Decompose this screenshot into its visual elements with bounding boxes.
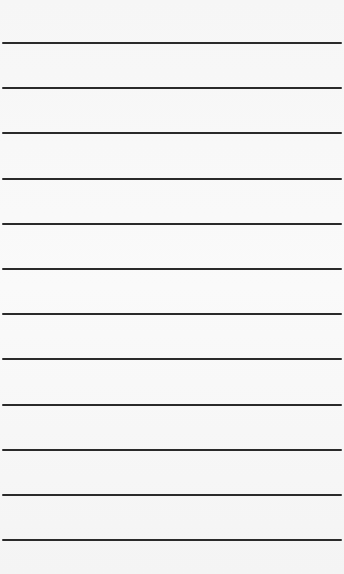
ruled-line — [2, 404, 342, 406]
ruled-line — [2, 494, 342, 496]
ruled-line — [2, 313, 342, 315]
ruled-line — [2, 539, 342, 541]
ruled-line — [2, 223, 342, 225]
ruled-line — [2, 358, 342, 360]
ruled-line — [2, 449, 342, 451]
ruled-line — [2, 87, 342, 89]
ruled-line — [2, 132, 342, 134]
lined-paper — [0, 0, 344, 574]
ruled-line — [2, 178, 342, 180]
ruled-line — [2, 42, 342, 44]
ruled-line — [2, 268, 342, 270]
